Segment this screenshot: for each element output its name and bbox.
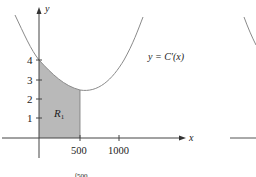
cutoff-text: ∫500 <box>74 172 88 177</box>
partial-curve-right <box>244 17 256 45</box>
y-tick-label-2: 2 <box>27 93 33 105</box>
y-axis-label: y <box>44 3 50 14</box>
chart-figure: 4 3 2 1 500 1000 x y y = C′(x) R1 ∫500 <box>0 0 256 177</box>
x-axis-label: x <box>188 132 194 143</box>
x-tick-label-500: 500 <box>71 145 87 156</box>
x-axis-arrow-icon <box>179 136 186 141</box>
y-tick-label-4: 4 <box>27 54 33 66</box>
curve-c-prime <box>15 15 143 90</box>
y-tick-label-3: 3 <box>27 74 33 86</box>
y-tick-label-1: 1 <box>27 112 33 124</box>
x-tick-label-1000: 1000 <box>108 145 129 156</box>
curve-label: y = C′(x) <box>147 51 185 63</box>
y-axis-arrow-icon <box>37 7 42 14</box>
shaded-region-r1 <box>39 60 80 138</box>
